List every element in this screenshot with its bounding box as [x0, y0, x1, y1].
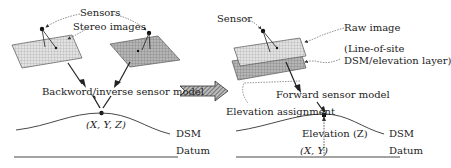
dsm-layer-label: DSM/elevation layer): [344, 55, 451, 66]
sensors-label: Sensors: [80, 7, 120, 18]
raw-image-label: Raw image: [344, 22, 400, 33]
xy-label: (X, Y): [300, 145, 328, 156]
stereo-images-label: Stereo images: [73, 21, 146, 32]
sensor-label: Sensor: [217, 13, 252, 24]
elevation-label: Elevation (Z): [302, 128, 368, 139]
dsm-label-left: DSM: [176, 128, 201, 139]
forward-model-label: Forward sensor model: [276, 89, 390, 100]
elevation-assignment-label: Elevation assignment: [226, 106, 335, 117]
datum-label-right: Datum: [389, 145, 423, 156]
stereo-image-left: [12, 35, 82, 68]
datum-label-left: Datum: [176, 145, 210, 156]
point-coordinates-label: (X, Y, Z): [86, 119, 126, 130]
line-of-site-label: (Line-of-site: [344, 43, 405, 54]
inverse-model-label: Backword/inverse sensor model: [42, 86, 204, 97]
dsm-label-right: DSM: [389, 128, 414, 139]
stereo-image-right: [110, 36, 180, 67]
